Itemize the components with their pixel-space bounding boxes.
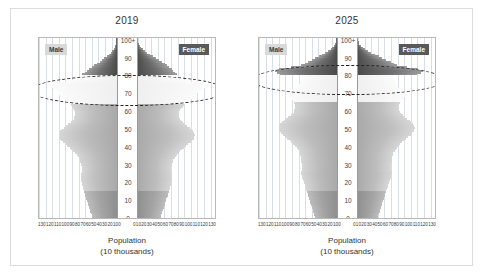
population-tick-label: 40 [152, 220, 157, 230]
population-tick-label: 100 [405, 220, 413, 230]
axis-caption-2025: Population (10 thousands) [237, 235, 457, 257]
population-tick-label: 30 [147, 220, 152, 230]
population-tick-label: 90 [70, 220, 75, 230]
age-axis-2025: 100+9080706050403020100 [337, 38, 358, 218]
population-tick-label: 80 [394, 220, 399, 230]
age-tick-label: 100+ [338, 37, 359, 43]
population-tick-label: 50 [311, 220, 316, 230]
age-axis-2019: 100+9080706050403020100 [117, 38, 138, 218]
age-tick-label: 30 [338, 161, 359, 168]
population-tick-label: 130 [208, 220, 216, 230]
population-tick-label: 30 [102, 220, 107, 230]
population-tick-label: 90 [179, 220, 184, 230]
age-tick-label: 20 [118, 179, 139, 186]
population-tick-label: 70 [388, 220, 393, 230]
population-tick-label: 100 [282, 220, 290, 230]
population-tick-label: 30 [367, 220, 372, 230]
age-tick-label: 70 [118, 90, 139, 97]
pyramid-female-bars-2025 [357, 38, 435, 218]
population-tick-label: 60 [86, 220, 91, 230]
population-tick-label: 80 [75, 220, 80, 230]
population-tick-label: 120 [266, 220, 274, 230]
population-tick-label: 50 [158, 220, 163, 230]
legend-male-2025: Male [265, 44, 287, 55]
chart-panel-2025: 2025 100+9080706050403020100 Male Female… [237, 9, 457, 265]
axis-caption-line1: Population [237, 235, 457, 246]
chart-title-2019: 2019 [17, 15, 237, 26]
chart-panel-2019: 2019 100+9080706050403020100 Male Female… [17, 9, 237, 265]
plot-area-2025: 100+9080706050403020100 Male Female [258, 37, 436, 219]
population-tick-label: 0 [118, 220, 121, 230]
population-tick-label: 70 [300, 220, 305, 230]
population-tick-label: 130 [258, 220, 266, 230]
population-tick-label: 0 [338, 220, 341, 230]
population-tick-label: 120 [420, 220, 428, 230]
pyramid-female-bars-2019 [137, 38, 215, 218]
age-tick-label: 90 [118, 54, 139, 61]
age-tick-label: 30 [118, 161, 139, 168]
age-tick-label: 10 [338, 197, 359, 204]
population-tick-label: 50 [91, 220, 96, 230]
population-tick-label: 10 [136, 220, 141, 230]
population-tick-label: 130 [428, 220, 436, 230]
age-tick-label: 50 [338, 125, 359, 132]
legend-female-2025: Female [399, 44, 429, 55]
population-tick-label: 10 [356, 220, 361, 230]
population-tick-label: 110 [274, 220, 281, 230]
population-tick-label: 60 [383, 220, 388, 230]
population-tick-label: 10 [113, 220, 118, 230]
age-tick-label: 40 [338, 143, 359, 150]
population-tick-label: 80 [174, 220, 179, 230]
age-tick-label: 0 [118, 215, 139, 220]
population-tick-label: 40 [372, 220, 377, 230]
population-ticks-left-2019: 1301201101009080706050403020100 [38, 220, 121, 230]
population-tick-label: 60 [163, 220, 168, 230]
population-tick-label: 30 [322, 220, 327, 230]
population-tick-label: 20 [107, 220, 112, 230]
age-tick-label: 40 [118, 143, 139, 150]
population-tick-label: 80 [295, 220, 300, 230]
age-tick-label: 90 [338, 54, 359, 61]
axis-caption-line2: (10 thousands) [237, 246, 457, 257]
population-tick-label: 90 [290, 220, 295, 230]
axis-caption-2019: Population (10 thousands) [17, 235, 237, 257]
population-tick-label: 100 [185, 220, 193, 230]
population-axis-2025: 1301201101009080706050403020100 01020304… [258, 220, 436, 230]
population-tick-label: 110 [54, 220, 61, 230]
population-tick-label: 120 [46, 220, 54, 230]
pyramid-male-bars-2019 [39, 38, 117, 218]
age-tick-label: 20 [338, 179, 359, 186]
age-tick-label: 100+ [118, 37, 139, 43]
chart-title-2025: 2025 [237, 15, 457, 26]
axis-caption-line1: Population [17, 235, 237, 246]
population-axis-2019: 1301201101009080706050403020100 01020304… [38, 220, 216, 230]
population-tick-label: 60 [306, 220, 311, 230]
population-ticks-left-2025: 1301201101009080706050403020100 [258, 220, 341, 230]
legend-female-2019: Female [179, 44, 209, 55]
age-tick-label: 10 [118, 197, 139, 204]
population-ticks-right-2025: 0102030405060708090100110120130 [353, 220, 436, 230]
population-tick-label: 20 [327, 220, 332, 230]
population-tick-label: 20 [361, 220, 366, 230]
population-tick-label: 40 [317, 220, 322, 230]
population-tick-label: 50 [378, 220, 383, 230]
population-tick-label: 110 [193, 220, 200, 230]
pyramid-male-bars-2025 [259, 38, 337, 218]
population-tick-label: 130 [38, 220, 46, 230]
population-tick-label: 70 [80, 220, 85, 230]
population-tick-label: 90 [399, 220, 404, 230]
population-tick-label: 40 [97, 220, 102, 230]
population-tick-label: 10 [333, 220, 338, 230]
population-ticks-right-2019: 0102030405060708090100110120130 [133, 220, 216, 230]
age-tick-label: 80 [118, 72, 139, 79]
age-tick-label: 0 [338, 215, 359, 220]
legend-male-2019: Male [45, 44, 67, 55]
age-tick-label: 70 [338, 90, 359, 97]
age-tick-label: 80 [338, 72, 359, 79]
population-tick-label: 110 [413, 220, 420, 230]
population-tick-label: 70 [168, 220, 173, 230]
age-tick-label: 60 [338, 108, 359, 115]
age-tick-label: 60 [118, 108, 139, 115]
age-tick-label: 50 [118, 125, 139, 132]
plot-area-2019: 100+9080706050403020100 Male Female [38, 37, 216, 219]
